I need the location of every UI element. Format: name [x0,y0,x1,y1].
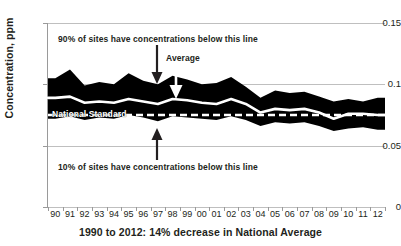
gridline [48,207,385,208]
x-tick-label: 12 [367,210,389,219]
y-axis-title: Concentration, ppm [3,0,15,153]
clipped-header-text [0,0,401,3]
x-tick-mark [385,207,386,211]
national-standard-label: National Standard [52,110,126,119]
p90-annotation-label: 90% of sites have concentrations below t… [58,35,258,44]
x-axis-caption: 1990 to 2012: 14% decrease in National A… [0,226,401,238]
average-annotation-label: Average [166,54,200,63]
ozone-trend-chart: 00.050.10.15 Concentration, ppm 90919293… [0,0,401,246]
p10-annotation-label: 10% of sites have concentrations below t… [58,163,258,172]
